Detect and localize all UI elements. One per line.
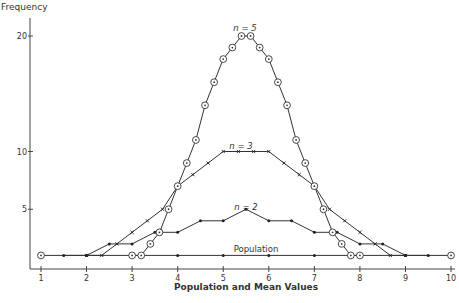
data-point-center (250, 35, 252, 37)
data-point-center (313, 185, 315, 187)
data-point-dot (176, 254, 179, 257)
y-tick-label: 5 (22, 205, 27, 214)
data-point-center (149, 243, 151, 245)
frequency-chart: Frequency Population and Mean Values Pop… (0, 0, 459, 303)
y-axis-label: Frequency (1, 2, 48, 12)
data-point-dot (267, 254, 270, 257)
data-point-center (277, 81, 279, 83)
data-point-dot (131, 242, 134, 245)
x-axis-label: Population and Mean Values (174, 282, 318, 292)
data-point-center (186, 162, 188, 164)
data-point-dot (245, 208, 248, 211)
data-point-center (204, 104, 206, 106)
data-point-center (40, 255, 42, 257)
data-point-dot (222, 254, 225, 257)
data-point-center (259, 47, 261, 49)
data-point-center (231, 47, 233, 49)
x-tick-label: 9 (403, 274, 408, 283)
x-tick-label: 2 (84, 274, 89, 283)
population-label: Population (234, 244, 279, 254)
data-point-center (359, 255, 361, 257)
data-point-dot (222, 219, 225, 222)
data-point-center (140, 255, 142, 257)
data-point-dot (427, 254, 430, 257)
y-tick-label: 20 (17, 32, 27, 41)
data-point-dot (62, 254, 65, 257)
x-tick-label: 8 (357, 274, 362, 283)
x-tick-label: 10 (446, 274, 456, 283)
n5-label: n = 5 (233, 23, 256, 33)
data-point-dot (313, 231, 316, 234)
data-point-dot (313, 254, 316, 257)
data-point-center (341, 243, 343, 245)
data-point-center (131, 255, 133, 257)
x-tick-label: 7 (312, 274, 317, 283)
data-point-dot (290, 219, 293, 222)
x-tick-label: 3 (130, 274, 135, 283)
data-point-center (286, 104, 288, 106)
y-tick-label: 10 (17, 148, 27, 157)
data-point-center (177, 185, 179, 187)
data-point-dot (358, 242, 361, 245)
x-tick-label: 6 (266, 274, 271, 283)
data-point-center (450, 255, 452, 257)
x-tick-label: 1 (38, 274, 43, 283)
data-point-dot (199, 219, 202, 222)
data-point-dot (108, 242, 111, 245)
data-point-center (295, 139, 297, 141)
data-point-center (323, 208, 325, 210)
data-point-center (222, 58, 224, 60)
data-point-dot (176, 231, 179, 234)
data-point-dot (381, 242, 384, 245)
x-tick-label: 4 (175, 274, 180, 283)
data-point-center (241, 35, 243, 37)
data-point-center (195, 139, 197, 141)
n3-label: n = 3 (229, 141, 252, 151)
data-point-center (268, 58, 270, 60)
data-point-dot (267, 219, 270, 222)
data-point-center (213, 81, 215, 83)
x-tick-label: 5 (221, 274, 226, 283)
data-point-center (168, 208, 170, 210)
data-point-center (350, 255, 352, 257)
data-point-center (332, 231, 334, 233)
data-point-center (159, 231, 161, 233)
data-point-center (304, 162, 306, 164)
